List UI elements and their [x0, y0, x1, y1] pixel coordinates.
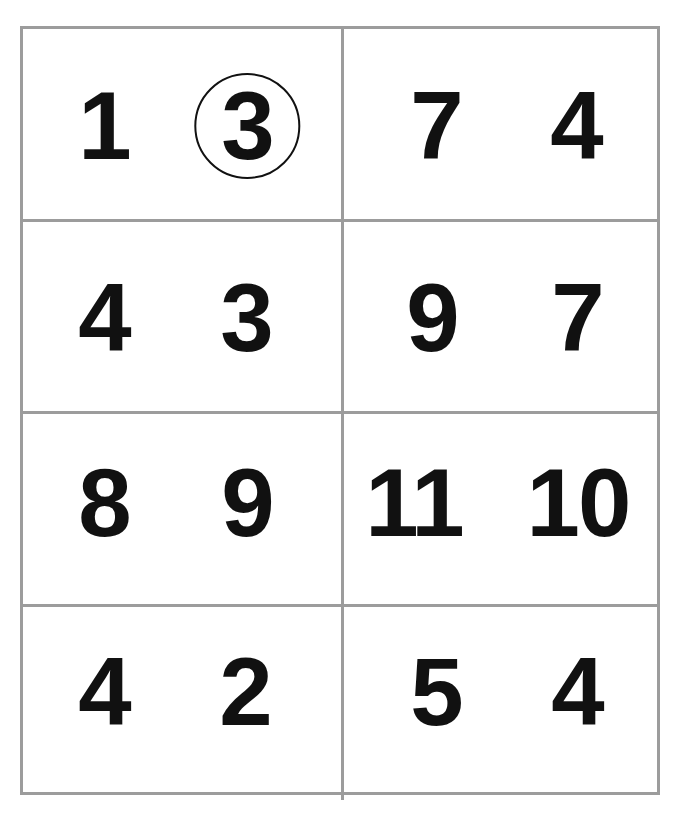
number-right: 9: [221, 455, 272, 551]
row-divider-1: [20, 219, 660, 222]
row-divider-3: [20, 604, 660, 607]
number-left: 5: [410, 644, 461, 740]
row-divider-2: [20, 411, 660, 414]
number-left: 9: [406, 270, 457, 366]
number-right-circled: 3: [221, 78, 272, 174]
number-right: 3: [220, 270, 271, 366]
number-left: 4: [78, 644, 129, 740]
number-right: 7: [551, 270, 602, 366]
number-right: 4: [551, 644, 602, 740]
number-right: 10: [527, 455, 630, 551]
number-left: 8: [78, 455, 129, 551]
number-left: 1: [78, 78, 129, 174]
number-left: 11: [365, 455, 462, 551]
number-right: 4: [550, 78, 601, 174]
number-right: 2: [219, 644, 270, 740]
number-left: 7: [410, 78, 461, 174]
number-left: 4: [78, 270, 129, 366]
